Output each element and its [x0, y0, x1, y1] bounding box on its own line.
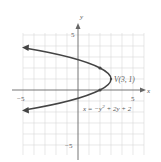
y-axis-label: y — [79, 13, 84, 21]
x-axis-label: x — [146, 87, 151, 95]
x-tick-5: 5 — [131, 95, 135, 103]
x-tick-neg5: −5 — [17, 95, 25, 103]
y-tick-neg5: −5 — [65, 142, 73, 150]
axes — [12, 23, 146, 160]
vertex-label: V(3, 1) — [114, 75, 135, 84]
y-axis-arrow-icon — [76, 23, 81, 29]
point-2-0 — [98, 88, 101, 91]
vertex-point — [110, 78, 112, 80]
x-axis-arrow-icon — [140, 88, 146, 93]
equation-label: x = −y2 + 2y + 2 — [82, 104, 132, 113]
point-2-2 — [98, 66, 101, 69]
parabola-graph: y x 5 −5 −5 5 V(3, 1) x = −y2 + 2y + 2 — [0, 0, 161, 162]
y-tick-5: 5 — [71, 31, 75, 39]
